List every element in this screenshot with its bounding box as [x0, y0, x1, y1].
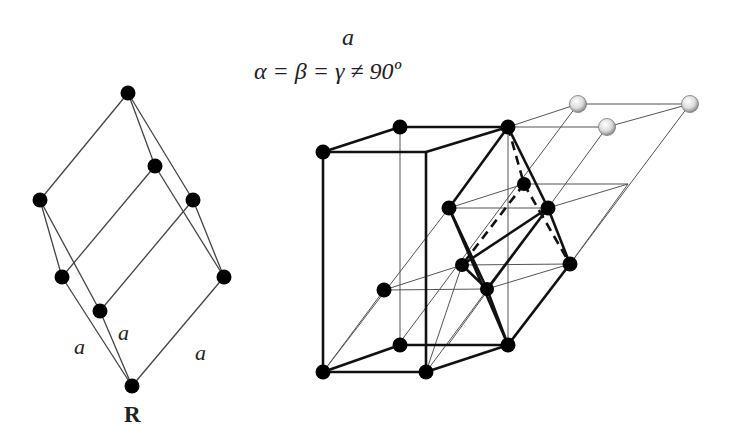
edge-label-a-3: a [195, 340, 206, 366]
rhombohedron-hidden-edges [462, 127, 570, 265]
edge-label-a-2: a [118, 320, 129, 346]
lattice-caption-R: R [124, 402, 141, 428]
lattice-thin-lines [323, 104, 690, 372]
lattice-parameter-label: a [342, 24, 354, 51]
rhombohedron-inset [449, 127, 570, 345]
edge-label-a-1: a [74, 334, 85, 360]
angle-relation-label: α = β = γ ≠ 90º [254, 58, 401, 85]
ghost-atoms [570, 96, 699, 136]
atoms-right [316, 120, 578, 380]
